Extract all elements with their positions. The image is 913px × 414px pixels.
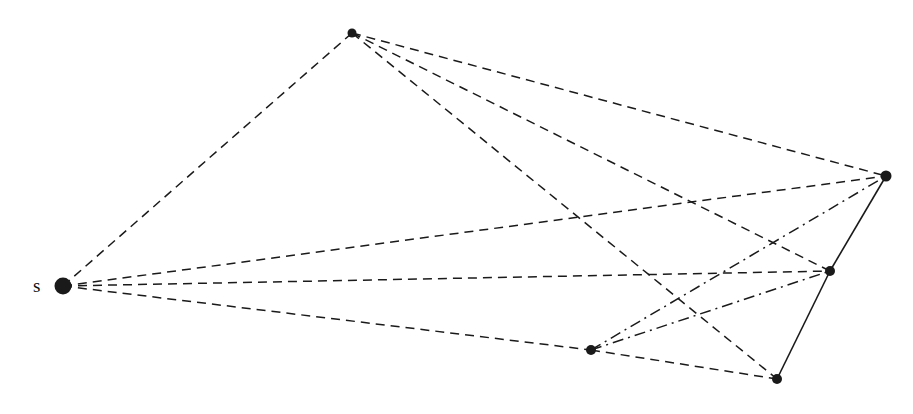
- edges-layer: [63, 33, 886, 379]
- edge-D-E: [591, 350, 777, 379]
- edge-A-B: [352, 33, 886, 176]
- edge-C-E: [777, 271, 830, 379]
- middle-right-node: [825, 266, 835, 276]
- edge-s-D: [63, 286, 591, 350]
- bottom-right-node: [772, 374, 782, 384]
- edge-s-A: [63, 33, 352, 286]
- edge-B-C: [830, 176, 886, 271]
- nodes-layer: [55, 29, 892, 385]
- top-node: [348, 29, 357, 38]
- edge-D-C: [591, 271, 830, 350]
- graph-figure: s: [0, 0, 913, 414]
- edge-s-C: [63, 271, 830, 286]
- right-node: [881, 171, 892, 182]
- edge-A-C: [352, 33, 830, 271]
- edge-s-B: [63, 176, 886, 286]
- graph-canvas: [0, 0, 913, 414]
- source-node-label: s: [33, 276, 40, 295]
- source-node: [55, 278, 72, 295]
- edge-A-E: [352, 33, 777, 379]
- bottom-left-node: [586, 345, 596, 355]
